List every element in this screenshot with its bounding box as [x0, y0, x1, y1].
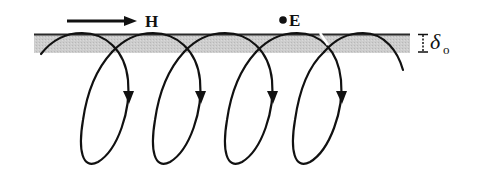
skin-depth-bracket-icon	[418, 35, 428, 53]
h-field-arrow-icon	[67, 16, 137, 26]
arrowhead-down-icon	[336, 91, 347, 104]
loop-arrowheads	[123, 91, 347, 104]
skin-depth-band	[34, 34, 410, 53]
e-field-label: E	[289, 12, 300, 29]
arrowhead-down-icon	[267, 91, 278, 104]
e-field-dot-icon	[279, 16, 287, 24]
skin-effect-diagram	[0, 0, 487, 172]
arrowhead-down-icon	[195, 91, 206, 104]
h-field-label: H	[145, 13, 158, 30]
skin-depth-subscript: o	[443, 43, 450, 56]
skin-depth-symbol: δ	[430, 31, 440, 53]
arrowhead-down-icon	[123, 91, 134, 104]
